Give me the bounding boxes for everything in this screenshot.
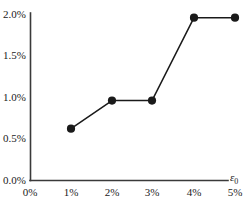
x-axis-title: ε0 — [230, 171, 238, 186]
x-tick-label-1: 1% — [64, 186, 79, 198]
y-tick-label-1-5: 1.5% — [0, 49, 26, 61]
data-point-marker — [108, 97, 116, 105]
line-chart: 2.0% 1.5% 1.0% 0.5% 0.0% 0% 1% 2% 3% 4% … — [0, 0, 250, 216]
x-tick-label-3: 3% — [145, 186, 160, 198]
x-tick-label-5: 5% — [228, 186, 243, 198]
data-line-series-1 — [71, 18, 235, 129]
x-tick-label-4: 4% — [187, 186, 202, 198]
data-point-marker — [67, 125, 75, 133]
y-tick-label-0-0: 0.0% — [0, 174, 26, 186]
x-tick-label-2: 2% — [105, 186, 120, 198]
chart-plot-area — [0, 0, 250, 216]
y-tick-label-0-5: 0.5% — [0, 132, 26, 144]
data-point-marker — [148, 97, 156, 105]
data-point-marker — [190, 14, 198, 22]
data-point-marker — [231, 14, 239, 22]
x-tick-label-0: 0% — [23, 186, 38, 198]
x-axis-title-subscript: 0 — [234, 177, 238, 186]
y-tick-label-2-0: 2.0% — [0, 8, 26, 20]
y-tick-label-1-0: 1.0% — [0, 91, 26, 103]
